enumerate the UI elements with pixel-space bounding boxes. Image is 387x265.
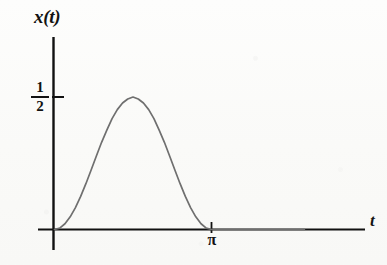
fraction-numerator: 1 — [31, 80, 49, 95]
x-axis-label: t — [370, 212, 375, 229]
figure-container: x(t) t 1 2 π — [0, 0, 387, 265]
data-curve-sin-squared — [55, 97, 305, 230]
x-tick-label-pi: π — [203, 232, 221, 248]
fraction-denominator: 2 — [31, 99, 49, 114]
plot-canvas — [0, 0, 387, 265]
y-tick-label-one-half: 1 2 — [31, 80, 49, 114]
y-axis-label: x(t) — [34, 7, 60, 26]
